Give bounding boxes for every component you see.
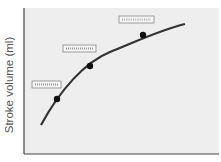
sarcomere-icon-short [32,81,61,88]
sarcomere-icon-long [119,16,154,23]
data-point-3 [140,32,146,38]
data-point-1 [54,96,60,102]
plot-area [0,0,221,162]
sarcomere-icon-medium [63,45,96,52]
data-point-2 [87,63,93,69]
